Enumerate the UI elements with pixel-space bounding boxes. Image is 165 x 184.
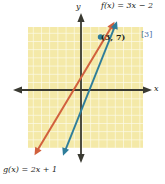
line-f-arrow-down: [62, 147, 69, 156]
graph-figure: f(x) = 3x − 2 g(x) = 2x + 1 (3, 7) [3] y…: [0, 0, 165, 184]
x-axis-arrow-left: [13, 86, 22, 93]
coordinate-plane: [0, 0, 165, 184]
x-axis-arrow-right: [143, 86, 152, 93]
grid-background: [28, 27, 143, 148]
function-f-label: f(x) = 3x − 2: [101, 2, 153, 10]
x-axis-label: x: [154, 85, 159, 93]
y-axis-arrow-up: [77, 13, 84, 22]
function-g-label: g(x) = 2x + 1: [3, 166, 57, 174]
y-axis-label: y: [76, 3, 81, 11]
figure-annotation: [3]: [141, 31, 152, 39]
y-axis-arrow-down: [77, 154, 84, 163]
intersection-point-label: (3, 7): [101, 33, 125, 41]
